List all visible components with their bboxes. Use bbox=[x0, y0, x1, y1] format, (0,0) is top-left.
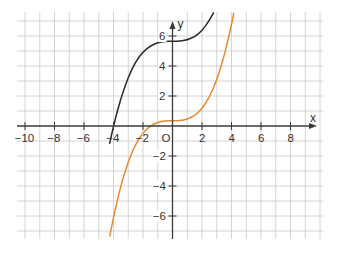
x-tick-label: −8 bbox=[47, 132, 60, 144]
y-tick-label: −2 bbox=[153, 150, 166, 162]
x-tick-label: 2 bbox=[199, 132, 205, 144]
axes: −10−8−6−4−22468−6−4−2246 x y O bbox=[15, 17, 317, 239]
origin-label: O bbox=[162, 132, 171, 144]
y-tick-label: −6 bbox=[153, 210, 166, 222]
x-tick-label: −6 bbox=[77, 132, 90, 144]
y-tick-label: −4 bbox=[153, 180, 167, 192]
x-tick-label: −10 bbox=[15, 132, 35, 144]
y-axis-arrow-icon bbox=[170, 21, 176, 29]
x-tick-label: −4 bbox=[106, 132, 120, 144]
x-tick-label: −2 bbox=[136, 132, 149, 144]
x-tick-label: 6 bbox=[258, 132, 264, 144]
y-tick-label: 6 bbox=[159, 30, 165, 42]
function-graph: −10−8−6−4−22468−6−4−2246 x y O bbox=[0, 0, 342, 253]
x-axis-label: x bbox=[310, 111, 316, 125]
y-tick-label: 2 bbox=[159, 90, 165, 102]
x-tick-label: 8 bbox=[287, 132, 293, 144]
y-tick-label: 4 bbox=[159, 60, 166, 72]
x-tick-label: 4 bbox=[228, 132, 235, 144]
y-axis-label: y bbox=[178, 17, 184, 31]
